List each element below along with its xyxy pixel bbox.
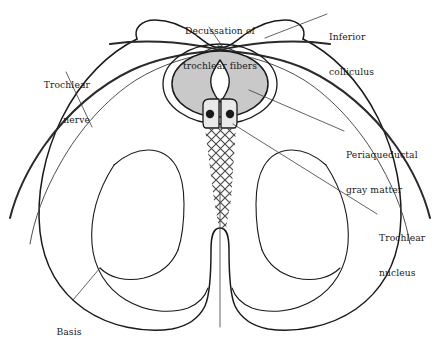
midbrain-section-figure: Decussation of trochlear fibers Inferior… (0, 0, 440, 354)
label-line: Decussation of (166, 25, 274, 37)
label-line: Trochlear (379, 232, 440, 244)
label-line: Periaqueductal (346, 149, 438, 161)
label-line: gray matter (346, 184, 438, 196)
label-trochlear-nucleus: Trochlear nucleus (379, 209, 440, 302)
decussation-crosshatch (200, 124, 242, 234)
leader-inferior-colliculus (265, 14, 327, 38)
label-line: trochlear fibers (166, 60, 274, 72)
label-line: nucleus (379, 267, 440, 279)
label-trochlear-nerve: Trochlear nerve (22, 56, 90, 149)
label-basis-pedunculi: Basis pedunculi (36, 303, 102, 354)
leader-basis-pedunculi (73, 268, 100, 300)
label-decussation-trochlear-fibers: Decussation of trochlear fibers (166, 2, 274, 95)
label-periaqueductal-gray-matter: Periaqueductal gray matter (346, 126, 438, 219)
trochlear-nucleus-left (206, 110, 214, 118)
trochlear-nucleus-right (226, 110, 234, 118)
label-line: nerve (22, 114, 90, 126)
label-line: Basis (36, 326, 102, 338)
label-decussation-superior-cerebellar-peduncles: Decussation of superior cerebellar pedun… (179, 330, 329, 354)
label-line: colliculus (329, 66, 399, 78)
label-line: Inferior (329, 31, 399, 43)
label-inferior-colliculus: Inferior colliculus (329, 8, 399, 101)
label-line: Trochlear (22, 79, 90, 91)
